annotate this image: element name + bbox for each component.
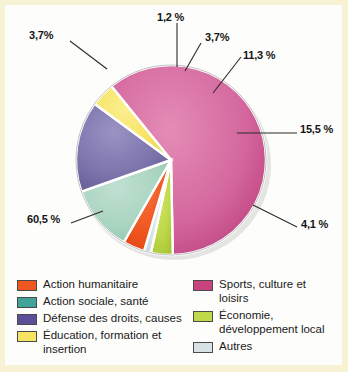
legend-item-droits[interactable]: Défense des droits, causes [17, 311, 187, 325]
legend-swatch-sociale [17, 297, 37, 308]
legend-swatch-economie [193, 311, 213, 322]
legend-swatch-droits [17, 314, 37, 325]
legend-item-economie[interactable]: Économie, développement local [193, 308, 338, 336]
legend-swatch-autres [193, 342, 213, 353]
pct-label-autres: 1,2 % [157, 11, 184, 23]
legend-label-sports: Sports, culture et loisirs [219, 277, 338, 305]
legend-label-autres: Autres [219, 339, 252, 353]
legend-item-sociale[interactable]: Action sociale, santé [17, 294, 187, 308]
legend-label-sociale: Action sociale, santé [43, 294, 148, 308]
legend-column-left: Action humanitaire Action sociale, santé… [17, 277, 187, 365]
pct-label-sociale: 11,3 % [243, 49, 275, 61]
legend-label-education: Éducation, formation et insertion [43, 328, 187, 356]
leader-line-education [253, 205, 297, 227]
legend-label-droits: Défense des droits, causes [43, 311, 182, 325]
figure-frame: 3,7% 1,2 % 3,7% 11,3 % 15,5 % 4,1 % 60,5… [0, 0, 348, 372]
legend-column-right: Sports, culture et loisirs Économie, dév… [193, 277, 338, 365]
legend-item-humanitaire[interactable]: Action humanitaire [17, 277, 187, 291]
legend-item-education[interactable]: Éducation, formation et insertion [17, 328, 187, 356]
pct-label-humanitaire: 3,7% [205, 31, 229, 43]
legend-swatch-sports [193, 280, 213, 291]
legend-swatch-education [17, 331, 37, 342]
pct-label-sports: 60,5 % [27, 213, 60, 225]
legend-label-economie: Économie, développement local [219, 308, 338, 336]
pct-label-droits: 15,5 % [300, 123, 333, 135]
legend-label-humanitaire: Action humanitaire [43, 277, 138, 291]
leader-line-economie [70, 41, 107, 69]
pie-chart-plot: 3,7% 1,2 % 3,7% 11,3 % 15,5 % 4,1 % 60,5… [5, 5, 342, 273]
legend-swatch-humanitaire [17, 280, 37, 291]
chart-legend: Action humanitaire Action sociale, santé… [5, 273, 342, 365]
pct-label-economie: 3,7% [29, 29, 53, 41]
legend-item-sports[interactable]: Sports, culture et loisirs [193, 277, 338, 305]
figure-inner: 3,7% 1,2 % 3,7% 11,3 % 15,5 % 4,1 % 60,5… [5, 5, 342, 365]
pct-label-education: 4,1 % [301, 218, 328, 230]
legend-item-autres[interactable]: Autres [193, 339, 338, 353]
pie-chart-svg [5, 5, 342, 273]
